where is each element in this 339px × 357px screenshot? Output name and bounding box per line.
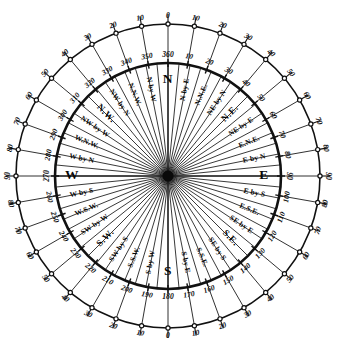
inner-degree-label: 200 [119, 282, 134, 295]
outer-degree-label: 70 [314, 116, 325, 126]
outer-ring-node [114, 31, 118, 35]
outer-ring-node [23, 122, 27, 126]
inner-degree-label: 60 [268, 110, 280, 121]
inner-degree-label: 110 [275, 210, 287, 224]
inner-degree-label: 180 [162, 292, 174, 301]
compass-point-label-w: W [65, 167, 79, 182]
inner-degree-label: 250 [48, 209, 61, 224]
inner-degree-label: 170 [182, 289, 195, 300]
outer-ring-node [192, 324, 196, 328]
outer-ring-node [68, 57, 72, 61]
outer-degree-label: 0 [166, 11, 170, 20]
outer-ring-node [14, 174, 18, 178]
inner-degree-label: 10 [185, 51, 194, 61]
outer-ring-node [166, 326, 170, 330]
outer-ring-node [16, 148, 20, 152]
inner-degree-label: 350 [139, 51, 153, 62]
inner-degree-label: 30 [222, 64, 234, 76]
outer-ring-node [34, 250, 38, 254]
inner-degree-label: 300 [55, 108, 69, 123]
compass-point-label-sse: S.S.E. [194, 246, 210, 268]
inner-degree-label: 90 [285, 172, 294, 180]
compass-point-label-w-by-s: W by S [69, 186, 94, 200]
outer-degree-label: 10 [136, 13, 145, 23]
inner-scale-tick [187, 61, 188, 69]
inner-degree-label: 330 [99, 64, 114, 78]
outer-ring-node [23, 226, 27, 230]
compass-point-label-n: N [163, 71, 173, 86]
inner-degree-label: 100 [281, 190, 292, 203]
outer-ring-node [264, 290, 268, 294]
inner-degree-label: 280 [43, 148, 54, 162]
outer-degree-label: 20 [107, 19, 118, 30]
outer-ring-node [318, 174, 322, 178]
outer-ring-node [282, 272, 286, 276]
outer-ring-node [90, 42, 94, 46]
compass-point-label-s: S [164, 263, 172, 278]
outer-ring-node [264, 57, 268, 61]
outer-degree-label: 80 [320, 199, 330, 208]
inner-degree-label: 340 [119, 55, 134, 68]
outer-degree-label: 10 [191, 328, 200, 338]
outer-ring-node [90, 306, 94, 310]
outer-degree-label: 10 [191, 13, 200, 23]
outer-ring-node [140, 24, 144, 28]
outer-ring-node [309, 226, 313, 230]
outer-ring-node [114, 317, 118, 321]
outer-ring-node [140, 324, 144, 328]
outer-ring-node [316, 148, 320, 152]
compass-point-label-n-by-e: N by E [178, 77, 191, 101]
inner-scale-tick [275, 156, 283, 157]
inner-degree-label: 190 [141, 289, 154, 300]
outer-degree-label: 20 [217, 19, 228, 30]
compass-point-label-e-by-n: E by N [242, 151, 267, 164]
outer-degree-label: 20 [107, 320, 118, 331]
inner-degree-label: 20 [204, 56, 215, 67]
outer-ring-node [16, 200, 20, 204]
outer-ring-node [309, 122, 313, 126]
inner-degree-label: 360 [161, 50, 174, 59]
compass-point-label-se-by-s: SE by S [207, 235, 229, 262]
compass-point-label-e: E [259, 167, 269, 182]
outer-ring-node [316, 200, 320, 204]
outer-degree-label: 80 [6, 199, 16, 208]
outer-degree-label: 80 [321, 144, 331, 153]
outer-degree-label: 0 [166, 331, 170, 340]
center-hub [163, 171, 174, 182]
outer-ring-node [34, 98, 38, 102]
outer-degree-label: 40 [265, 46, 278, 59]
inner-degree-label: 260 [44, 190, 55, 204]
outer-ring-node [218, 317, 222, 321]
compass-point-label-s-by-w: S by W [143, 249, 157, 275]
inner-degree-label: 160 [202, 283, 216, 295]
outer-ring-node [242, 306, 246, 310]
outer-ring-node [192, 24, 196, 28]
inner-scale-tick [53, 156, 61, 157]
outer-ring-node [298, 98, 302, 102]
outer-degree-label: 30 [242, 30, 254, 42]
outer-ring-node [68, 290, 72, 294]
outer-degree-label: 30 [81, 31, 93, 43]
outer-degree-label: 10 [136, 328, 145, 338]
compass-point-label-w-by-n: W by N [69, 151, 96, 165]
outer-ring-node [166, 22, 170, 26]
compass-point-label-ne: N.E. [219, 103, 240, 124]
inner-degree-label: 80 [283, 150, 293, 159]
compass-center-hub [163, 171, 174, 182]
outer-ring-node [49, 272, 53, 276]
outer-degree-label: 70 [312, 225, 323, 235]
compass-point-label-ssw: S.S.W. [125, 245, 142, 268]
outer-degree-label: 60 [301, 90, 313, 101]
outer-degree-label: 90 [324, 172, 333, 180]
inner-degree-label: 270 [42, 170, 51, 183]
compass-point-label-n-by-w: N by W [145, 76, 159, 103]
outer-degree-label: 70 [13, 225, 24, 235]
compass-svg: 3601020304050607080901001101201301401501… [0, 0, 339, 357]
inner-degree-label: 290 [47, 127, 60, 142]
outer-ring-node [282, 76, 286, 80]
compass-point-label-nw: N.W. [95, 102, 118, 125]
compass-point-label-ene: E.N.E. [237, 133, 261, 150]
outer-degree-label: 80 [5, 143, 15, 152]
compass-rose-diagram: 3601020304050607080901001101201301401501… [0, 0, 339, 357]
outer-ring-node [242, 42, 246, 46]
